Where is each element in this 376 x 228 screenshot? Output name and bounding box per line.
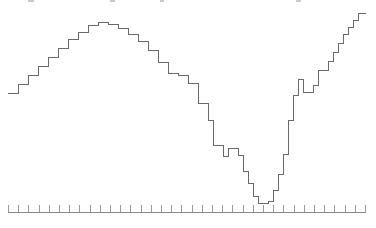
chart-background <box>0 0 376 228</box>
text-crumb <box>160 0 164 2</box>
text-crumb <box>28 0 34 2</box>
text-crumb <box>296 0 301 2</box>
chart-canvas[interactable] <box>0 0 376 228</box>
step-chart-figure <box>0 0 376 228</box>
text-crumb <box>110 0 115 2</box>
